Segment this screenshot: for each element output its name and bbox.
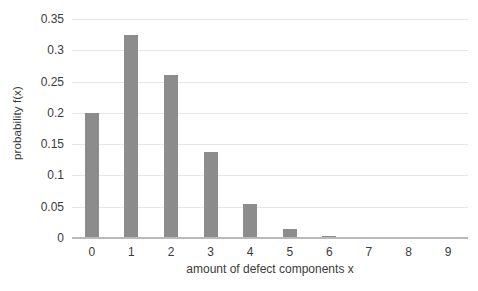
bar-chart: probability f(x) 00.050.10.150.20.250.30… [0,0,478,291]
bar [164,75,178,238]
y-tick-label: 0.2 [47,106,64,120]
bar-slot [428,19,468,238]
y-tick-label: 0.3 [47,43,64,57]
y-tick-label: 0 [57,231,64,245]
bar-slot [151,19,191,238]
bar-slot [72,19,112,238]
x-tick-label: 1 [112,243,152,263]
x-tick-label: 3 [191,243,231,263]
bar-slot [112,19,152,238]
bars-layer [72,19,468,238]
y-tick-label: 0.05 [41,200,64,214]
x-axis-title: amount of defect components x [72,262,468,276]
x-tick-label: 0 [72,243,112,263]
bar [204,152,218,238]
bar [243,204,257,238]
x-tick-label: 8 [389,243,429,263]
x-tick-label: 2 [151,243,191,263]
bar [85,113,99,238]
gridline [72,238,468,239]
bar-slot [270,19,310,238]
bar-slot [230,19,270,238]
x-axis-line [72,237,468,238]
x-tick-label: 5 [270,243,310,263]
bar-slot [349,19,389,238]
y-axis-title: probability f(x) [6,0,28,245]
x-tick-label: 7 [349,243,389,263]
plot-area [72,19,468,238]
y-tick-label: 0.15 [41,137,64,151]
y-tick-label: 0.1 [47,168,64,182]
bar [124,35,138,238]
y-axis-title-text: probability f(x) [11,86,23,160]
bar-slot [310,19,350,238]
y-axis-tick-labels: 00.050.10.150.20.250.30.35 [26,0,68,291]
x-tick-label: 6 [310,243,350,263]
x-tick-label: 9 [428,243,468,263]
bar-slot [191,19,231,238]
x-tick-label: 4 [230,243,270,263]
x-axis-tick-labels: 0123456789 [72,243,468,263]
bar-slot [389,19,429,238]
y-tick-label: 0.25 [41,75,64,89]
y-tick-label: 0.35 [41,12,64,26]
